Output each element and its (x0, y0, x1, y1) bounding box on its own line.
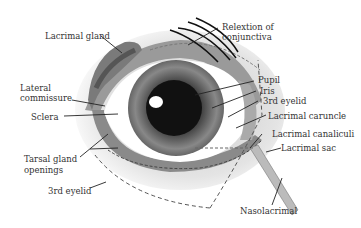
nasolacrimal-duct (250, 145, 298, 215)
label-lateral: Lateral (20, 83, 51, 93)
label-3rd-eyelid-bottom: 3rd eyelid (48, 186, 91, 196)
label-tarsal-gland: Tarsal gland (24, 154, 77, 164)
label-lacrimal-gland: Lacrimal gland (45, 31, 110, 41)
eye-anatomy-diagram: Lacrimal gland Relextion of conjunctiva … (0, 0, 361, 228)
label-lacrimal-caruncle: Lacrimal caruncle (268, 111, 346, 121)
label-nasolacrimal: Nasolacrimal (240, 206, 297, 216)
label-commissure: commissure (20, 93, 72, 103)
label-openings: openings (24, 165, 63, 175)
label-lacrimal-canaliculi: Lacrimal canaliculi (272, 129, 354, 139)
label-sclera: Sclera (31, 112, 58, 122)
label-iris: Iris (260, 86, 275, 96)
label-lacrimal-sac: Lacrimal sac (281, 143, 336, 153)
label-relextion-of: Relextion of (222, 22, 274, 32)
eye-highlight (149, 96, 163, 108)
label-3rd-eyelid-top: 3rd eyelid (263, 96, 306, 106)
pupil (146, 80, 202, 136)
label-conjunctiva: conjunctiva (222, 32, 272, 42)
label-pupil: Pupil (258, 75, 280, 85)
